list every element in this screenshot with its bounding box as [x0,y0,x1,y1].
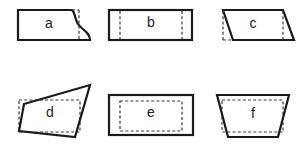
shape-c-label: c [250,15,257,31]
diagram-canvas: a b c d e f [0,0,307,149]
shape-c: c [223,10,294,40]
shape-b-label: b [147,14,155,30]
shape-f: f [217,95,289,137]
shape-c-outline [223,10,294,40]
shape-d-label: d [46,104,54,120]
shape-a: a [18,10,90,40]
shape-e: e [109,95,193,135]
shape-a-label: a [45,15,53,31]
shape-d-outline [19,85,90,137]
shape-f-label: f [251,105,255,121]
shape-e-label: e [147,104,155,120]
shape-a-outline [18,10,90,40]
shape-d: d [19,85,90,137]
shape-b: b [109,10,192,40]
